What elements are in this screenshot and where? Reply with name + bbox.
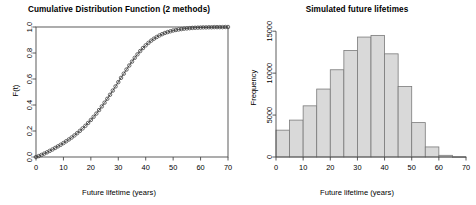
histogram-x-tick-label: 0 — [274, 163, 278, 172]
histogram-bar — [412, 123, 426, 157]
cdf-y-tick-label: 0.8 — [25, 48, 34, 58]
cdf-plot-area: 0102030405060700.00.20.40.60.81.0 — [0, 0, 238, 205]
cdf-x-tick-label: 30 — [114, 163, 122, 172]
histogram-x-tick-label: 20 — [326, 163, 334, 172]
histogram-bar — [371, 35, 385, 157]
histogram-bar — [357, 37, 371, 157]
histogram-plot-area: 010203040506070050001000015000 — [238, 0, 476, 205]
cdf-x-tick-label: 40 — [142, 163, 150, 172]
histogram-bar — [385, 54, 399, 157]
histogram-bar — [276, 130, 290, 157]
histogram-bar — [317, 89, 331, 157]
histogram-bar — [398, 87, 412, 157]
histogram-y-axis-label: Frequency — [249, 76, 258, 106]
histogram-x-tick-label: 40 — [380, 163, 388, 172]
figure-canvas: Cumulative Distribution Function (2 meth… — [0, 0, 476, 205]
histogram-x-tick-label: 60 — [435, 163, 443, 172]
cdf-x-tick-label: 20 — [87, 163, 95, 172]
histogram-x-tick-label: 30 — [353, 163, 361, 172]
cdf-y-tick-label: 0.2 — [25, 126, 34, 136]
cdf-y-tick-label: 1.0 — [25, 22, 34, 32]
histogram-y-tick-label: 5000 — [265, 107, 274, 123]
cdf-x-axis-label: Future lifetime (years) — [0, 188, 238, 197]
histogram-x-tick-label: 10 — [299, 163, 307, 172]
cdf-x-tick-label: 10 — [59, 163, 67, 172]
cdf-y-tick-label: 0.0 — [25, 152, 34, 162]
histogram-x-tick-label: 70 — [462, 163, 470, 172]
histogram-bar — [330, 70, 344, 157]
cdf-y-axis-label: F(t) — [11, 76, 20, 106]
cdf-x-tick-label: 60 — [196, 163, 204, 172]
cdf-points-method-2 — [34, 25, 230, 159]
cdf-x-tick-label: 0 — [34, 163, 38, 172]
histogram-x-axis-label: Future lifetime (years) — [238, 188, 476, 197]
histogram-bar — [290, 120, 304, 157]
histogram-x-tick-label: 50 — [408, 163, 416, 172]
histogram-bar — [425, 147, 439, 157]
histogram-y-tick-label: 15000 — [265, 21, 274, 42]
cdf-x-tick-label: 50 — [169, 163, 177, 172]
cdf-line-method-1 — [36, 27, 228, 157]
cdf-y-tick-label: 0.4 — [25, 100, 34, 110]
chart-panel-histogram: Simulated future lifetimes 0102030405060… — [238, 0, 476, 205]
histogram-bars — [276, 35, 466, 157]
histogram-y-tick-label: 10000 — [265, 63, 274, 84]
histogram-bar — [303, 106, 317, 157]
chart-panel-cdf: Cumulative Distribution Function (2 meth… — [0, 0, 238, 205]
histogram-y-tick-label: 0 — [265, 155, 274, 159]
cdf-y-tick-label: 0.6 — [25, 74, 34, 84]
histogram-bar — [344, 50, 358, 157]
cdf-x-tick-label: 70 — [224, 163, 232, 172]
